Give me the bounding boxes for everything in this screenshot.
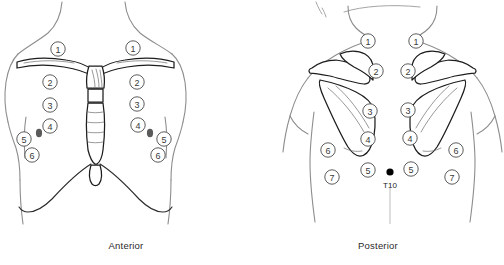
anterior-marker-1-left[interactable]: 1 xyxy=(51,42,65,56)
svg-text:5: 5 xyxy=(365,166,370,176)
posterior-marker-4-right[interactable]: 4 xyxy=(403,131,417,145)
anterior-marker-5-left[interactable]: 5 xyxy=(17,132,31,146)
scapula-right xyxy=(410,51,476,156)
nipple-right-marker xyxy=(147,129,153,137)
svg-text:1: 1 xyxy=(55,45,60,55)
anterior-panel: 1 1 2 2 3 3 4 4 5 5 6 6 Anterior xyxy=(0,0,252,265)
svg-text:5: 5 xyxy=(161,135,166,145)
posterior-marker-3-left[interactable]: 3 xyxy=(363,104,377,118)
anterior-marker-2-right[interactable]: 2 xyxy=(130,75,144,89)
posterior-marker-7-right[interactable]: 7 xyxy=(445,170,459,184)
anterior-marker-3-right[interactable]: 3 xyxy=(130,97,144,111)
anterior-marker-4-left[interactable]: 4 xyxy=(43,119,57,133)
nipple-left-marker xyxy=(36,129,42,137)
svg-text:4: 4 xyxy=(47,122,52,132)
svg-text:3: 3 xyxy=(367,107,372,117)
svg-text:6: 6 xyxy=(155,151,160,161)
svg-text:4: 4 xyxy=(365,135,370,145)
svg-text:2: 2 xyxy=(47,78,52,88)
svg-text:4: 4 xyxy=(135,121,140,131)
posterior-panel: 1 1 2 2 3 3 4 4 5 5 6 6 7 7 T10 Posterio… xyxy=(252,0,504,265)
anatomy-figure: 1 1 2 2 3 3 4 4 5 5 6 6 Anterior xyxy=(0,0,504,265)
anterior-marker-5-right[interactable]: 5 xyxy=(157,132,171,146)
svg-text:6: 6 xyxy=(325,146,330,156)
t10-marker xyxy=(386,168,393,175)
posterior-marker-3-right[interactable]: 3 xyxy=(401,103,415,117)
svg-text:2: 2 xyxy=(373,67,378,77)
hairline xyxy=(316,2,420,17)
anterior-marker-4-right[interactable]: 4 xyxy=(131,118,145,132)
posterior-marker-6-left[interactable]: 6 xyxy=(321,143,335,157)
posterior-marker-1-right[interactable]: 1 xyxy=(409,34,423,48)
svg-text:5: 5 xyxy=(408,165,413,175)
svg-text:1: 1 xyxy=(413,37,418,47)
anterior-marker-2-left[interactable]: 2 xyxy=(43,75,57,89)
anterior-marker-3-left[interactable]: 3 xyxy=(43,98,57,112)
anterior-marker-6-right[interactable]: 6 xyxy=(151,148,165,162)
anterior-marker-1-right[interactable]: 1 xyxy=(126,41,140,55)
posterior-marker-4-left[interactable]: 4 xyxy=(361,132,375,146)
svg-text:7: 7 xyxy=(449,173,454,183)
svg-text:5: 5 xyxy=(21,135,26,145)
svg-text:3: 3 xyxy=(405,106,410,116)
svg-text:6: 6 xyxy=(453,146,458,156)
svg-text:1: 1 xyxy=(365,37,370,47)
posterior-caption: Posterior xyxy=(252,240,504,251)
t10-label: T10 xyxy=(370,181,410,190)
svg-text:1: 1 xyxy=(130,44,135,54)
svg-text:3: 3 xyxy=(134,100,139,110)
sternum-bone xyxy=(87,66,105,186)
anterior-illustration: 1 1 2 2 3 3 4 4 5 5 6 6 xyxy=(0,0,252,265)
posterior-marker-7-left[interactable]: 7 xyxy=(325,170,339,184)
posterior-marker-5-left[interactable]: 5 xyxy=(361,163,375,177)
svg-text:2: 2 xyxy=(405,67,410,77)
posterior-marker-1-left[interactable]: 1 xyxy=(361,34,375,48)
anterior-marker-6-left[interactable]: 6 xyxy=(25,148,39,162)
anterior-caption: Anterior xyxy=(0,240,252,251)
posterior-marker-5-right[interactable]: 5 xyxy=(404,162,418,176)
svg-text:4: 4 xyxy=(407,134,412,144)
svg-text:6: 6 xyxy=(29,151,34,161)
posterior-illustration: 1 1 2 2 3 3 4 4 5 5 6 6 7 7 xyxy=(252,0,504,265)
svg-text:2: 2 xyxy=(134,78,139,88)
posterior-marker-6-right[interactable]: 6 xyxy=(449,143,463,157)
posterior-marker-2-left[interactable]: 2 xyxy=(369,64,383,78)
posterior-marker-2-right[interactable]: 2 xyxy=(401,64,415,78)
svg-text:3: 3 xyxy=(47,101,52,111)
svg-text:7: 7 xyxy=(329,173,334,183)
